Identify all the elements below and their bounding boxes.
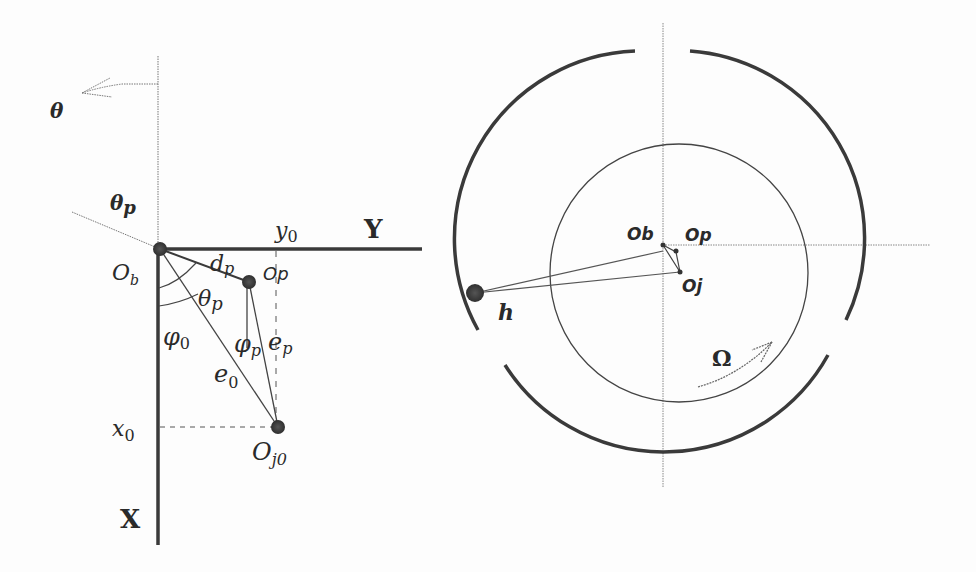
pad-angle-reference-line [72,212,160,249]
pad-to-oj-line [475,272,680,293]
oj0-label: Oj0 [252,438,287,469]
theta-p-upper-label: θp [110,191,136,218]
op-center-label: Op [685,225,712,245]
ob-center-point [661,243,666,248]
pad-to-ob-line [475,251,663,293]
pad-pivot-point [466,284,484,302]
ep-label: ep [268,328,292,358]
diagram-svg: θ θp Y y0 X x0 Ob dp Op θp φ0 φp e [0,0,976,572]
theta-label: θ [50,99,64,123]
omega-rotation-arrow-icon [698,342,772,387]
theta-arrow-icon [82,78,158,97]
e0-label: e0 [214,360,238,392]
x0-label: x0 [112,416,135,445]
op-point [242,275,256,289]
phi-p-label: φp [234,330,261,360]
op-center-point [674,249,679,254]
y-axis-label: Y [363,214,383,244]
diagram-canvas: θ θp Y y0 X x0 Ob dp Op θp φ0 φp e [0,0,976,572]
x-axis-label: X [120,504,141,534]
right-panel: Ob Op Oj h Ω [454,23,930,487]
pad-bottom-arc [505,355,828,452]
left-panel: θ θp Y y0 X x0 Ob dp Op θp φ0 φp e [50,56,422,545]
ob-center-label: Ob [627,224,654,244]
op-label: Op [263,263,289,284]
oj0-point [271,420,285,434]
pad-right-arc [690,51,865,320]
phi0-angle-arc [159,294,198,306]
oj-center-label: Oj [682,276,703,296]
theta-p-label: θp [198,286,223,314]
dp-label: dp [210,251,234,278]
phi0-label: φ0 [163,323,190,353]
y0-label: y0 [274,218,298,246]
h-label: h [498,299,514,325]
oj-center-point [678,270,683,275]
ob-label: Ob [112,260,139,288]
omega-label: Ω [712,345,732,371]
ob-point [153,242,167,256]
dp-segment [160,249,249,282]
